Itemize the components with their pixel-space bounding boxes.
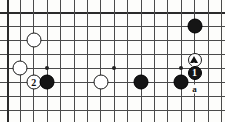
go-board-diagram: 21 a bbox=[0, 0, 225, 122]
grid-line-vertical bbox=[33, 0, 34, 122]
grid-line-vertical bbox=[7, 0, 9, 122]
stone-move-number: 2 bbox=[31, 77, 36, 87]
grid-line-vertical bbox=[141, 0, 142, 122]
grid-line-vertical bbox=[87, 0, 88, 122]
stone-black-1[interactable]: 1 bbox=[188, 66, 202, 80]
star-point-left bbox=[45, 66, 49, 70]
grid-line-vertical bbox=[167, 0, 168, 122]
grid-line-vertical bbox=[100, 0, 101, 122]
grid-line-vertical bbox=[74, 0, 75, 122]
triangle-marker-icon bbox=[190, 56, 199, 64]
grid-line-vertical bbox=[221, 0, 222, 122]
stone-white[interactable] bbox=[26, 33, 41, 48]
stone-black[interactable] bbox=[187, 19, 202, 34]
grid-line-vertical bbox=[154, 0, 155, 122]
grid-line-vertical bbox=[208, 0, 209, 122]
grid-line-vertical bbox=[127, 0, 128, 122]
stone-white[interactable] bbox=[93, 75, 108, 90]
stone-black[interactable] bbox=[40, 75, 55, 90]
grid-line-vertical bbox=[181, 0, 182, 122]
grid-line-vertical bbox=[60, 0, 61, 122]
star-point-center bbox=[112, 66, 116, 70]
grid-line-vertical bbox=[47, 0, 48, 122]
star-point-right bbox=[179, 66, 183, 70]
stone-black[interactable] bbox=[174, 75, 189, 90]
point-label-a: a bbox=[192, 85, 198, 94]
stone-move-number: 1 bbox=[192, 68, 197, 78]
stone-black[interactable] bbox=[134, 75, 149, 90]
grid-line-vertical bbox=[114, 0, 115, 122]
stone-white[interactable] bbox=[13, 61, 28, 76]
